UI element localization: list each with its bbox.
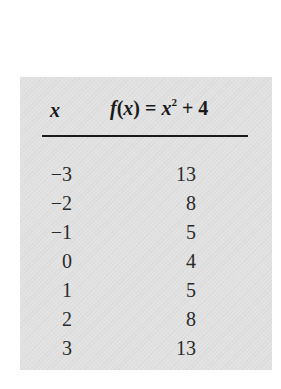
table-row: 1 5: [0, 276, 281, 304]
cell-x: −1: [42, 218, 72, 246]
cell-x: −3: [42, 160, 72, 188]
table-row: −1 5: [0, 218, 281, 246]
cell-x: 1: [42, 276, 72, 304]
cell-fx: 5: [160, 218, 196, 246]
header-fx-var: x: [123, 97, 133, 119]
table-row: 0 4: [0, 247, 281, 275]
header-fx: f(x) = x2 + 4: [110, 97, 208, 120]
header-fx-tail: + 4: [177, 97, 208, 119]
header-fx-x: x: [161, 97, 171, 119]
cell-x: 3: [42, 334, 72, 362]
cell-x: 0: [42, 247, 72, 275]
cell-fx: 13: [160, 160, 196, 188]
header-rule: [42, 135, 248, 137]
header-fx-name: f: [110, 97, 117, 119]
header-x: x: [50, 99, 60, 122]
cell-fx: 4: [160, 247, 196, 275]
cell-fx: 8: [160, 305, 196, 333]
table-row: −3 13: [0, 160, 281, 188]
cell-x: −2: [42, 189, 72, 217]
cell-fx: 8: [160, 189, 196, 217]
cell-x: 2: [42, 305, 72, 333]
table-row: 2 8: [0, 305, 281, 333]
cell-fx: 13: [160, 334, 196, 362]
header-fx-eq: ) =: [133, 97, 161, 119]
table-row: 3 13: [0, 334, 281, 362]
cell-fx: 5: [160, 276, 196, 304]
table-row: −2 8: [0, 189, 281, 217]
